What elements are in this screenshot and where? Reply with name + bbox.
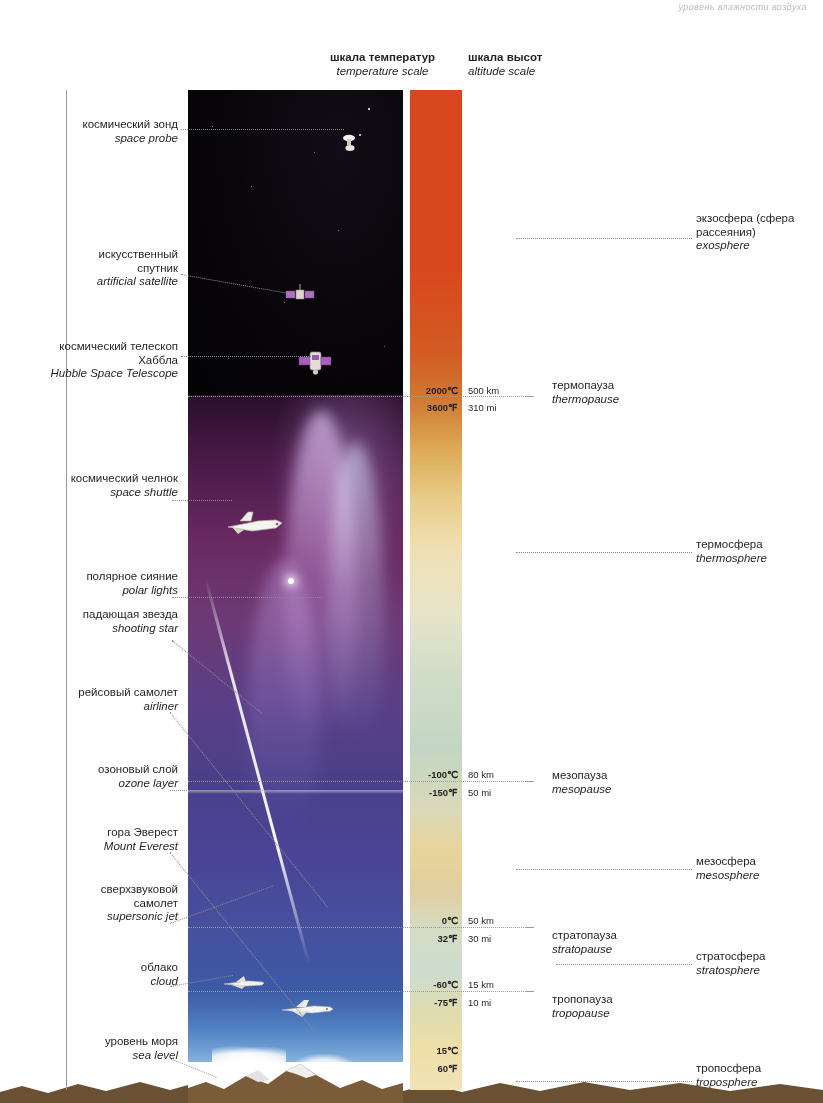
temp-label-0c: 0℃ — [442, 915, 458, 926]
temperature-scale-caption-en: temperature scale — [330, 64, 435, 78]
callout-sea-level: уровень моря sea level — [105, 1035, 178, 1062]
callout-ozone-layer-ru: озоновый слой — [98, 763, 178, 777]
callout-tropopause-ru: тропопауза — [552, 993, 613, 1007]
supersonic-jet-icon — [222, 974, 266, 992]
temperature-scale-caption: шкала температур temperature scale — [330, 50, 435, 78]
space-probe-icon — [336, 130, 366, 156]
callout-thermopause-ru: термопауза — [552, 379, 619, 393]
callout-ozone-layer: озоновый слой ozone layer — [98, 763, 178, 790]
temp-label-minus150f: -150℉ — [429, 787, 458, 798]
temp-label-2000c: 2000℃ — [426, 385, 458, 396]
callout-mesopause-ru: мезопауза — [552, 769, 611, 783]
callout-mesosphere: мезосфера mesosphere — [696, 855, 759, 882]
callout-tropopause-en: tropopause — [552, 1007, 613, 1021]
running-head: уровень влажности воздуха — [678, 2, 807, 12]
callout-space-probe-ru: космический зонд — [83, 118, 178, 132]
leader-troposphere — [516, 1081, 692, 1082]
callout-supersonic-jet: сверхзвуковой самолет supersonic jet — [101, 883, 178, 924]
callout-mount-everest-en: Mount Everest — [104, 840, 178, 854]
callout-supersonic-jet-en: supersonic jet — [101, 910, 178, 924]
hubble-space-telescope-icon — [293, 345, 335, 379]
callout-polar-lights-en: polar lights — [86, 584, 178, 598]
callout-hubble-space-telescope-ru2: Хаббла — [51, 354, 178, 368]
callout-troposphere: тропосфера troposphere — [696, 1062, 761, 1089]
altitude-axis-rule — [66, 90, 67, 1090]
callout-mount-everest-ru: гора Эверест — [104, 826, 178, 840]
leader-ozone-layer — [170, 790, 275, 791]
alt-label-50km: 50 km — [468, 915, 494, 926]
callout-troposphere-en: troposphere — [696, 1076, 761, 1090]
callout-mesosphere-ru: мезосфера — [696, 855, 759, 869]
temp-label-60f: 60℉ — [437, 1063, 458, 1074]
callout-shooting-star-en: shooting star — [83, 622, 178, 636]
callout-sea-level-en: sea level — [105, 1049, 178, 1063]
callout-artificial-satellite-en: artificial satellite — [97, 275, 178, 289]
star — [368, 108, 370, 110]
callout-tropopause: тропопауза tropopause — [552, 993, 613, 1020]
boundary-rule-thermopause — [188, 396, 528, 397]
callout-artificial-satellite-ru: искусственный — [97, 248, 178, 262]
callout-hubble-space-telescope-en: Hubble Space Telescope — [51, 367, 178, 381]
alt-label-50mi: 50 mi — [468, 787, 491, 798]
leader-hubble-space-telescope — [181, 356, 311, 357]
callout-airliner-en: airliner — [78, 700, 178, 714]
leader-exosphere — [516, 238, 692, 239]
callout-ozone-layer-en: ozone layer — [98, 777, 178, 791]
callout-stratopause-en: stratopause — [552, 943, 617, 957]
temp-label-32f: 32℉ — [437, 933, 458, 944]
callout-stratosphere-en: stratosphere — [696, 964, 766, 978]
atmosphere-artwork — [188, 90, 403, 1090]
callout-mesopause: мезопауза mesopause — [552, 769, 611, 796]
callout-thermosphere-ru: термосфера — [696, 538, 767, 552]
shooting-star-icon — [288, 578, 294, 584]
callout-airliner-ru: рейсовый самолет — [78, 686, 178, 700]
leader-polar-lights — [172, 597, 322, 598]
callout-stratosphere-ru: стратосфера — [696, 950, 766, 964]
temp-label-minus60c: -60℃ — [433, 979, 458, 990]
callout-supersonic-jet-ru2: самолет — [101, 897, 178, 911]
altitude-scale-column: 500 km 310 mi 80 km 50 mi 50 km 30 mi 15… — [468, 90, 528, 1090]
space-shuttle-icon — [224, 508, 286, 538]
callout-airliner: рейсовый самолет airliner — [78, 686, 178, 713]
callout-space-shuttle: космический челнок space shuttle — [71, 472, 178, 499]
callout-exosphere-ru2: рассеяния) — [696, 226, 794, 240]
alt-label-15km: 15 km — [468, 979, 494, 990]
callout-hubble-space-telescope: космический телескоп Хаббла Hubble Space… — [51, 340, 178, 381]
callout-hubble-space-telescope-ru: космический телескоп — [51, 340, 178, 354]
callout-stratopause: стратопауза stratopause — [552, 929, 617, 956]
leader-space-shuttle — [172, 500, 232, 501]
callout-mesosphere-en: mesosphere — [696, 869, 759, 883]
callout-supersonic-jet-ru: сверхзвуковой — [101, 883, 178, 897]
alt-label-30mi: 30 mi — [468, 933, 491, 944]
callout-cloud: облако cloud — [141, 961, 178, 988]
temperature-scale-caption-ru: шкала температур — [330, 50, 435, 64]
altitude-scale-caption-en: altitude scale — [468, 64, 542, 78]
callout-artificial-satellite-ru2: спутник — [97, 262, 178, 276]
altitude-scale-caption-ru: шкала высот — [468, 50, 542, 64]
callout-sea-level-ru: уровень моря — [105, 1035, 178, 1049]
callout-thermopause-en: thermopause — [552, 393, 619, 407]
atmosphere-diagram: уровень влажности воздуха шкала температ… — [0, 0, 823, 1103]
boundary-rule-tropopause — [188, 991, 528, 992]
temp-label-15c: 15℃ — [436, 1045, 458, 1056]
callout-cloud-ru: облако — [141, 961, 178, 975]
altitude-scale-caption: шкала высот altitude scale — [468, 50, 542, 78]
leader-stratosphere — [556, 964, 692, 965]
temp-label-minus75f: -75℉ — [434, 997, 458, 1008]
temp-label-3600f: 3600℉ — [427, 402, 458, 413]
airliner-icon — [280, 998, 336, 1020]
callout-shooting-star-ru: падающая звезда — [83, 608, 178, 622]
callout-space-probe-en: space probe — [83, 132, 178, 146]
callout-thermosphere: термосфера thermosphere — [696, 538, 767, 565]
alt-label-80km: 80 km — [468, 769, 494, 780]
callout-stratosphere: стратосфера stratosphere — [696, 950, 766, 977]
callout-mount-everest: гора Эверест Mount Everest — [104, 826, 178, 853]
leader-thermosphere — [516, 552, 692, 553]
callout-stratopause-ru: стратопауза — [552, 929, 617, 943]
callout-exosphere-ru: экзосфера (сфера — [696, 212, 794, 226]
callout-artificial-satellite: искусственный спутник artificial satelli… — [97, 248, 178, 289]
callout-exosphere-en: exosphere — [696, 239, 794, 253]
callout-shooting-star: падающая звезда shooting star — [83, 608, 178, 635]
callout-polar-lights-ru: полярное сияние — [86, 570, 178, 584]
callout-space-shuttle-ru: космический челнок — [71, 472, 178, 486]
